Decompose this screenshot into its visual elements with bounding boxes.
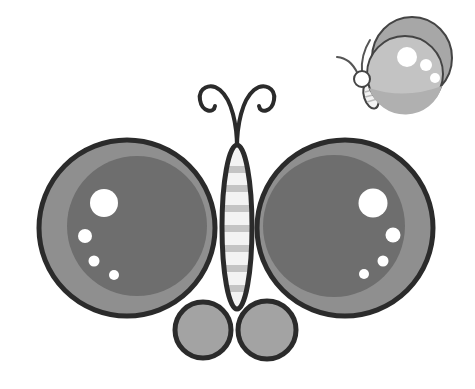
left-lower-wing	[175, 302, 231, 358]
left-wing-highlight-4	[109, 270, 119, 280]
left-wing-inner	[67, 156, 207, 296]
left-wing-highlight-1	[90, 189, 118, 217]
right-wing-highlight-3	[378, 256, 389, 267]
butterfly-illustration	[0, 0, 475, 389]
left-wing-highlight-3	[89, 256, 100, 267]
right-wing	[257, 140, 433, 316]
right-wing-highlight-4	[359, 269, 369, 279]
small-butterfly-highlight-medium	[420, 59, 432, 71]
small-butterfly-highlight-large	[397, 47, 417, 67]
body	[220, 145, 255, 309]
small-butterfly-highlight-small	[430, 73, 440, 83]
right-lower-wing	[238, 301, 296, 359]
left-wing-highlight-2	[78, 229, 92, 243]
right-wing-inner	[263, 155, 405, 297]
left-wing	[39, 140, 215, 316]
right-wing-highlight-2	[386, 228, 401, 243]
small-butterfly-head	[354, 71, 370, 87]
right-wing-highlight-1	[359, 189, 388, 218]
